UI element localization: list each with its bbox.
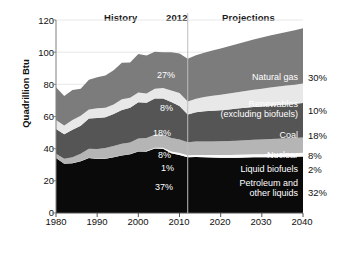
inline-pct-coal: 18% — [153, 128, 171, 138]
x-tick-2020: 2020 — [200, 216, 240, 227]
x-tick-2040: 2040 — [282, 216, 322, 227]
y-tick-20: 20 — [28, 176, 54, 186]
y-tick-80: 80 — [28, 80, 54, 90]
x-tick-2000: 2000 — [118, 216, 158, 227]
right-pct-renewables: 10% — [308, 105, 327, 116]
right-pct-natural-gas: 30% — [308, 72, 327, 83]
stacked-area-chart: History 2012 Projections Quadrillion Btu… — [0, 0, 344, 257]
series-label-petroleum-text: Petroleum andother liquids — [178, 178, 298, 198]
right-pct-liquid-biofuels: 2% — [308, 164, 322, 175]
series-label-renewables-line1: Renewables(excluding biofuels) — [148, 99, 298, 119]
right-pct-coal: 18% — [308, 130, 327, 141]
series-label-nuclear: Nuclear — [267, 150, 298, 160]
x-tick-2010: 2010 — [159, 216, 199, 227]
series-label-renewables: Renewables(excluding biofuels) — [148, 99, 298, 119]
projections-label: Projections — [222, 12, 275, 23]
right-pct-nuclear: 8% — [308, 150, 322, 161]
series-label-coal: Coal — [279, 130, 298, 140]
inline-pct-liquid-biofuels: 1% — [161, 163, 174, 173]
x-tick-1990: 1990 — [77, 216, 117, 227]
y-tick-100: 100 — [28, 48, 54, 58]
series-label-liquid-biofuels: Liquid biofuels — [240, 164, 298, 174]
inline-pct-nuclear: 8% — [158, 150, 171, 160]
x-tick-2030: 2030 — [241, 216, 281, 227]
series-label-petroleum: Petroleum andother liquids — [178, 178, 298, 198]
x-tick-1980: 1980 — [36, 216, 76, 227]
x-axis-tick-labels: 1980 1990 2000 2010 2020 2030 2040 — [0, 216, 344, 230]
right-pct-petroleum: 32% — [308, 187, 327, 198]
y-tick-60: 60 — [28, 112, 54, 122]
inline-pct-petroleum: 37% — [155, 182, 173, 192]
y-tick-40: 40 — [28, 144, 54, 154]
inline-pct-natural-gas: 27% — [157, 70, 175, 80]
y-tick-120: 120 — [28, 16, 54, 26]
series-label-natural-gas: Natural gas — [252, 72, 298, 82]
year-divider-label: 2012 — [166, 12, 188, 23]
history-label: History — [104, 12, 137, 23]
